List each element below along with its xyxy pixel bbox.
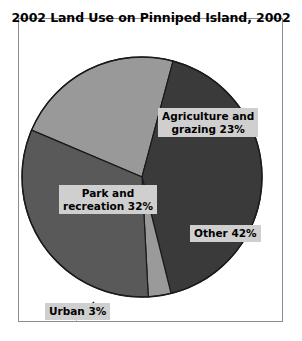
pie-label-urban-line1: Urban 3% <box>49 305 106 317</box>
pie-label-agriculture-line2: grazing 23% <box>171 123 244 135</box>
pie-label-other-line1: Other 42% <box>194 227 257 239</box>
pie-label-agriculture-line1: Agriculture and <box>162 110 254 122</box>
pie-label-park-and-recreation: Park and recreation 32% <box>59 185 157 214</box>
pie-label-park-line2: recreation 32% <box>63 200 153 212</box>
pie-label-urban: Urban 3% <box>45 303 110 320</box>
pie-slices <box>22 57 262 297</box>
pie-svg <box>18 18 283 322</box>
pie-label-other: Other 42% <box>190 225 261 242</box>
pie-label-park-line1: Park and <box>82 187 134 199</box>
pie-label-agriculture-and-grazing: Agriculture and grazing 23% <box>158 108 258 137</box>
pie-chart: Agriculture and grazing 23% Park and rec… <box>18 18 283 322</box>
